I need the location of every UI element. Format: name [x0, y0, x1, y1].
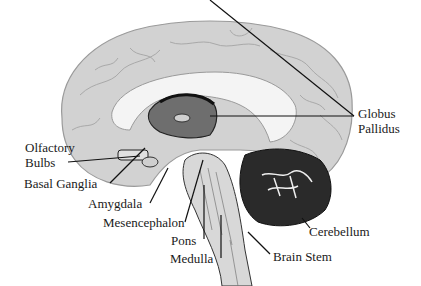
label-globus-pallidus-line2: Pallidus — [358, 122, 400, 136]
label-amygdala: Amygdala — [88, 197, 142, 211]
label-olfactory-line2: Bulbs — [25, 156, 55, 170]
label-olfactory-line1: Olfactory — [25, 141, 75, 155]
label-medulla: Medulla — [170, 252, 213, 266]
label-pons: Pons — [171, 234, 196, 248]
cerebellum — [240, 149, 331, 226]
label-cerebellum: Cerebellum — [309, 225, 370, 239]
label-basal-ganglia: Basal Ganglia — [24, 177, 97, 191]
label-globus-pallidus-line1: Globus — [358, 107, 396, 121]
label-brain-stem: Brain Stem — [273, 250, 332, 264]
label-mesencephalon: Mesencephalon — [103, 216, 185, 230]
brain-diagram: Globus Pallidus Olfactory Bulbs Basal Ga… — [0, 0, 421, 286]
